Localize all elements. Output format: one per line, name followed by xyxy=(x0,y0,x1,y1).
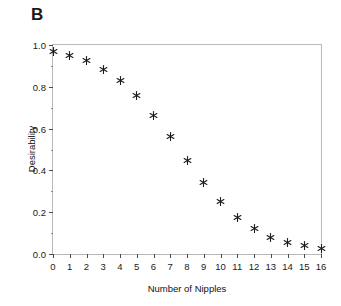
data-point-marker xyxy=(233,213,242,222)
data-point-marker xyxy=(65,51,74,60)
y-axis-tick xyxy=(49,170,53,171)
x-axis-tick-label: 9 xyxy=(201,261,206,272)
x-axis-tick xyxy=(154,254,155,258)
data-point-marker xyxy=(300,241,309,250)
x-axis-tick-label: 5 xyxy=(134,261,139,272)
x-axis-tick xyxy=(221,254,222,258)
data-point-marker xyxy=(99,65,108,74)
y-axis-minor-tick xyxy=(51,233,54,234)
y-axis-minor-tick xyxy=(51,66,54,67)
x-axis-tick xyxy=(120,254,121,258)
y-axis-tick xyxy=(49,129,53,130)
x-axis-tick xyxy=(271,254,272,258)
y-axis-tick xyxy=(49,87,53,88)
y-axis-tick xyxy=(49,212,53,213)
x-axis-tick-label: 6 xyxy=(151,261,156,272)
plot-frame: 0.00.20.40.60.81.00123456789101112131415… xyxy=(52,44,322,255)
y-axis-tick-label: 1.0 xyxy=(33,40,46,51)
x-axis-tick-label: 16 xyxy=(316,261,327,272)
data-point-marker xyxy=(317,244,326,253)
data-point-marker xyxy=(166,132,175,141)
x-axis-tick-label: 1 xyxy=(67,261,72,272)
x-axis-tick xyxy=(87,254,88,258)
x-axis-tick-label: 4 xyxy=(117,261,122,272)
data-point-marker xyxy=(216,197,225,206)
x-axis-tick xyxy=(321,254,322,258)
x-axis-tick-label: 15 xyxy=(299,261,310,272)
panel-label: B xyxy=(31,6,43,23)
y-axis-tick xyxy=(49,45,53,46)
plot-area xyxy=(53,45,321,254)
data-point-marker xyxy=(199,178,208,187)
x-axis-tick xyxy=(204,254,205,258)
data-point-marker xyxy=(266,233,275,242)
data-point-marker xyxy=(49,47,58,56)
x-axis-tick-label: 11 xyxy=(232,261,242,272)
x-axis-tick-label: 3 xyxy=(101,261,106,272)
y-axis-title: Desirability xyxy=(26,126,37,172)
x-axis-tick-label: 7 xyxy=(168,261,173,272)
y-axis-minor-tick xyxy=(51,191,54,192)
y-axis-tick-label: 0.2 xyxy=(33,207,46,218)
y-axis-tick-label: 0.8 xyxy=(33,81,46,92)
x-axis-tick-label: 12 xyxy=(249,261,260,272)
x-axis-tick-label: 8 xyxy=(184,261,189,272)
x-axis-tick xyxy=(288,254,289,258)
x-axis-tick xyxy=(103,254,104,258)
data-point-marker xyxy=(283,238,292,247)
x-axis-tick xyxy=(254,254,255,258)
x-axis-tick xyxy=(137,254,138,258)
data-point-marker xyxy=(183,156,192,165)
x-axis-tick xyxy=(237,254,238,258)
data-point-marker xyxy=(250,224,259,233)
x-axis-tick-label: 0 xyxy=(50,261,55,272)
x-axis-tick xyxy=(187,254,188,258)
data-point-marker xyxy=(132,91,141,100)
x-axis-tick xyxy=(70,254,71,258)
x-axis-title: Number of Nipples xyxy=(52,283,322,294)
y-axis-tick-label: 0.0 xyxy=(33,249,46,260)
x-axis-tick xyxy=(170,254,171,258)
y-axis-minor-tick xyxy=(51,108,54,109)
x-axis-tick-label: 13 xyxy=(265,261,276,272)
y-axis-minor-tick xyxy=(51,150,54,151)
data-point-marker xyxy=(149,111,158,120)
x-axis-tick-label: 2 xyxy=(84,261,89,272)
data-point-marker xyxy=(116,76,125,85)
figure-panel-b: B 0.00.20.40.60.81.001234567891011121314… xyxy=(0,0,341,306)
data-point-marker xyxy=(82,56,91,65)
x-axis-tick xyxy=(304,254,305,258)
x-axis-tick-label: 14 xyxy=(282,261,293,272)
x-axis-tick-label: 10 xyxy=(215,261,226,272)
x-axis-tick xyxy=(53,254,54,258)
